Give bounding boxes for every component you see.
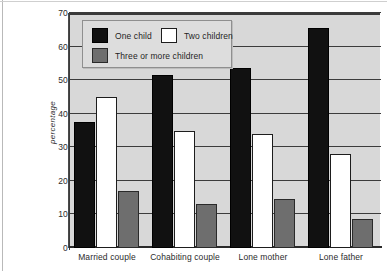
x-tick-label: Married couple (68, 252, 146, 262)
black-swatch-icon (92, 28, 108, 43)
y-tick-label: 40 (28, 109, 68, 119)
bar-group (303, 13, 381, 248)
legend-item-one-child: One child (92, 28, 152, 43)
y-tick-label: 60 (28, 42, 68, 52)
y-tick-label: 20 (28, 176, 68, 186)
grey-swatch-icon (92, 48, 108, 63)
bar (174, 131, 195, 249)
legend-label: One child (115, 31, 152, 41)
legend: One child Two children Three or more chi… (82, 20, 232, 68)
scan-border-left (2, 0, 3, 271)
bar (74, 122, 95, 248)
scan-border-top (0, 1, 387, 2)
white-swatch-icon (161, 28, 177, 43)
y-tick-label: 50 (28, 75, 68, 85)
legend-label: Two children (184, 31, 233, 41)
bar-group (225, 13, 303, 248)
bar (152, 75, 173, 248)
bar (230, 68, 251, 248)
bar (330, 154, 351, 248)
bar (352, 219, 373, 248)
legend-item-two-children: Two children (161, 28, 233, 43)
bar (252, 134, 273, 248)
legend-item-three-or-more-children: Three or more children (92, 48, 203, 63)
y-tick-label: 10 (28, 209, 68, 219)
bar (96, 97, 117, 248)
bar (118, 191, 139, 248)
plot-area: One child Two children Three or more chi… (68, 13, 380, 248)
legend-label: Three or more children (115, 51, 203, 61)
bar (308, 28, 329, 248)
y-tick-label: 30 (28, 142, 68, 152)
bar (196, 204, 217, 248)
bar (274, 199, 295, 248)
x-tick-label: Cohabiting couple (146, 252, 224, 262)
y-tick-label: 0 (28, 243, 68, 253)
y-axis-ticks: 010203040506070 (24, 13, 68, 248)
y-tick-label: 70 (28, 8, 68, 18)
x-tick-label: Lone mother (224, 252, 302, 262)
bar-chart-figure: percentage 010203040506070 One child Two… (0, 0, 387, 271)
x-tick-label: Lone father (302, 252, 380, 262)
